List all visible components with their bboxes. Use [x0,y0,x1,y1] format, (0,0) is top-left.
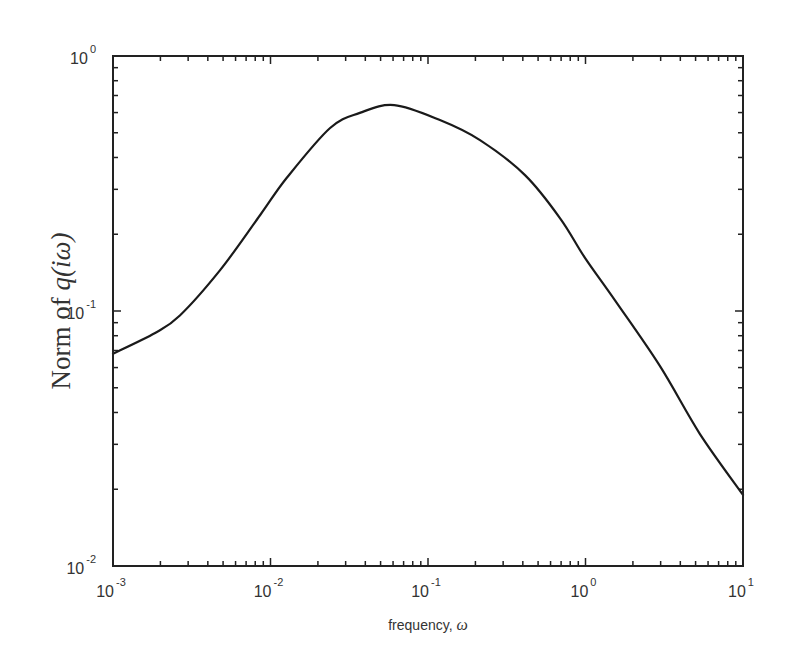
x-axis-tick-labels: 10-310-210-1100101 [96,576,754,600]
data-series-line [113,105,743,495]
axis-ticks [113,56,743,566]
tick-label: 10-2 [254,576,284,600]
tick-label: 100 [70,43,96,67]
x-axis-label: frequency, ω [388,616,468,633]
tick-label: 10-1 [411,576,441,600]
tick-label: 10-2 [66,553,96,577]
chart: 10-310-210-1100101 10-210-1100 frequency… [0,0,796,657]
tick-label: 10-3 [96,576,126,600]
y-axis-label: Norm of q(iω) [46,232,76,389]
plot-frame [113,56,743,566]
tick-label: 100 [571,576,597,600]
tick-label: 101 [728,576,754,600]
